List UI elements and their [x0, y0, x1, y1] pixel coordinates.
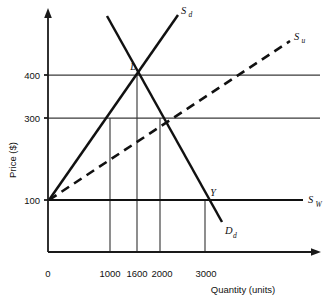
curve-label-sw-main: S: [308, 194, 314, 205]
y-axis-title: Price ($): [7, 142, 18, 178]
xtick-label-origin: 0: [45, 268, 50, 279]
curve-label-sd-main: S: [181, 5, 187, 16]
xtick-label-1000: 1000: [99, 268, 120, 279]
ytick-label-400: 400: [24, 70, 40, 81]
axes: [44, 8, 321, 256]
curve-label-su-sub: u: [302, 36, 306, 45]
supply-demand-chart: 400 300 100 0 1000 1600 2000 3000 Price …: [0, 0, 336, 299]
curve-label-sw-sub: W: [316, 200, 323, 209]
curve-label-sw: S W: [308, 194, 323, 209]
x-axis-title: Quantity (units): [211, 284, 275, 295]
curve-label-dd-sub: d: [233, 231, 237, 240]
curve-label-sd-sub: d: [189, 10, 193, 19]
curve-demand-dd: [107, 16, 222, 222]
curve-label-dd-main: D: [224, 225, 233, 236]
curve-supply-su-dashed: [49, 41, 290, 200]
point-label-y: Y: [210, 187, 217, 198]
xtick-label-3000: 3000: [195, 268, 216, 279]
chart-canvas: 400 300 100 0 1000 1600 2000 3000 Price …: [0, 0, 336, 299]
curve-label-dd: D d: [224, 225, 237, 240]
x-axis-arrowhead: [311, 248, 321, 256]
y-axis-arrowhead: [44, 8, 52, 18]
xtick-label-2000: 2000: [151, 268, 172, 279]
curve-label-su-main: S: [294, 31, 300, 42]
ytick-label-100: 100: [24, 195, 40, 206]
point-label-l: L: [129, 61, 136, 72]
curve-label-su: S u: [294, 31, 306, 45]
horizontal-gridlines: [48, 75, 320, 118]
curve-label-sd: S d: [181, 5, 193, 19]
ytick-label-300: 300: [24, 113, 40, 124]
xtick-label-1600: 1600: [126, 268, 147, 279]
